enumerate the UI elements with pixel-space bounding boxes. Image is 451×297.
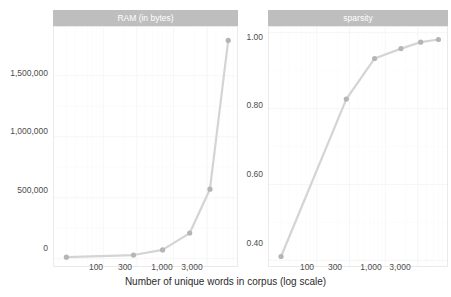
xtick-label-ram-2: 1,000 <box>145 262 179 272</box>
xtick-label-sparsity-0: 100 <box>292 262 322 272</box>
sparsity-plot-svg <box>269 27 447 266</box>
ytick-label-sparsity-0: 1.00 <box>218 32 263 42</box>
ytick-label-sparsity-3: 0.40 <box>218 238 263 248</box>
ytick-label-sparsity-1: 0.80 <box>218 100 263 110</box>
ram-plot-svg <box>54 27 237 266</box>
xtick-label-ram-3: 3,000 <box>175 262 209 272</box>
plot-area-sparsity <box>268 26 448 267</box>
chart-figure: RAM (in bytes) 1,500,000 1,000,000 500,0… <box>0 0 451 297</box>
plot-area-ram <box>53 26 238 267</box>
xtick-label-sparsity-1: 300 <box>320 262 350 272</box>
ytick-label-ram-2: 500,000 <box>0 185 48 195</box>
ytick-label-ram-3: 0 <box>0 243 48 253</box>
ytick-label-sparsity-2: 0.60 <box>218 169 263 179</box>
x-axis-title: Number of unique words in corpus (log sc… <box>0 276 451 288</box>
facet-strip-label-sparsity: sparsity <box>268 10 448 26</box>
xtick-label-sparsity-3: 3,000 <box>383 262 417 272</box>
xtick-label-ram-1: 300 <box>110 262 140 272</box>
facet-strip-label-ram: RAM (in bytes) <box>53 10 238 26</box>
ytick-label-ram-0: 1,500,000 <box>0 68 48 78</box>
xtick-label-ram-0: 100 <box>81 262 111 272</box>
ytick-label-ram-1: 1,000,000 <box>0 126 48 136</box>
